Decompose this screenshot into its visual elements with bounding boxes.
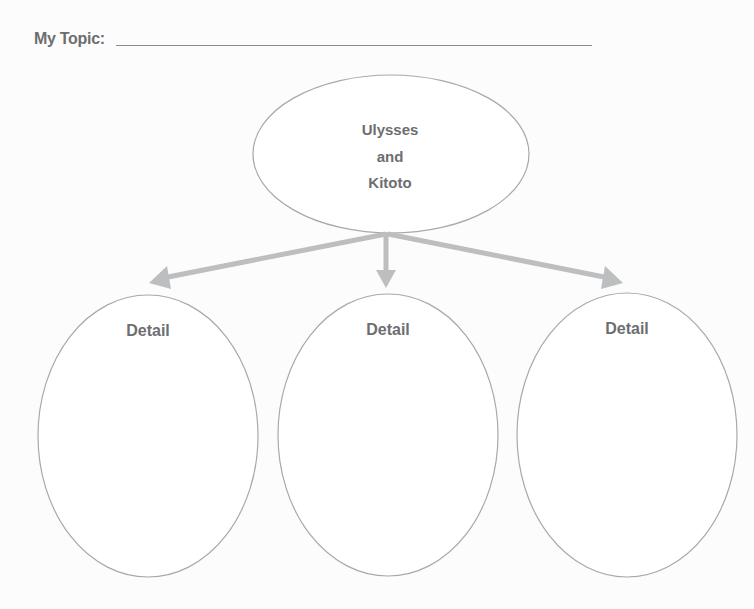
main-topic-line-2: and (290, 144, 490, 171)
arrows-group (149, 233, 623, 289)
diagram-canvas (0, 0, 754, 609)
arrow-middle-head-icon (376, 270, 396, 288)
arrow-left-head-icon (149, 266, 171, 289)
main-topic-line-1: Ulysses (290, 117, 490, 144)
main-topic-line-3: Kitoto (290, 170, 490, 197)
detail-label-2: Detail (328, 321, 448, 339)
arrow-right-head-icon (601, 266, 623, 289)
arrow-right-shaft (388, 234, 609, 278)
arrow-left-shaft (163, 234, 386, 278)
graphic-organizer-page: My Topic: Ulysses and Kitoto Detail Deta… (0, 0, 754, 609)
detail-label-1: Detail (88, 322, 208, 340)
detail-label-3: Detail (567, 320, 687, 338)
main-topic-text: Ulysses and Kitoto (290, 117, 490, 197)
